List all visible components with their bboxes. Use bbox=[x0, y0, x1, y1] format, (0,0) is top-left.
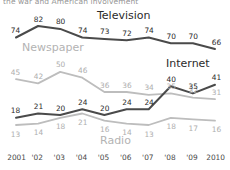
value-label: 82 bbox=[34, 15, 43, 24]
value-label: 17 bbox=[189, 124, 198, 133]
value-label: 16 bbox=[100, 125, 109, 134]
x-tick-2001: 2001 bbox=[7, 153, 26, 162]
series-line-radio bbox=[16, 114, 215, 126]
value-label: 36 bbox=[100, 81, 109, 90]
value-label: 36 bbox=[122, 81, 131, 90]
series-line-newspaper bbox=[16, 72, 215, 99]
value-label: 72 bbox=[122, 29, 131, 38]
value-label: 80 bbox=[56, 17, 65, 26]
x-tick-02: '02 bbox=[32, 153, 43, 162]
chart-root: the war and American involvement 7482807… bbox=[0, 0, 230, 170]
value-label: 13 bbox=[144, 130, 153, 139]
value-label: 46 bbox=[78, 66, 87, 75]
value-label: 31 bbox=[212, 88, 221, 97]
value-label: 21 bbox=[34, 102, 43, 111]
value-label: 74 bbox=[11, 26, 20, 35]
value-label: 24 bbox=[122, 98, 131, 107]
x-tick-09: '09 bbox=[186, 153, 197, 162]
value-label: 74 bbox=[144, 26, 153, 35]
value-label: 24 bbox=[144, 98, 153, 107]
value-label: 13 bbox=[11, 130, 20, 139]
value-label: 70 bbox=[167, 32, 176, 41]
x-tick-08: '08 bbox=[164, 153, 175, 162]
value-label: 14 bbox=[34, 128, 43, 137]
value-label: 42 bbox=[34, 72, 43, 81]
value-label: 73 bbox=[100, 27, 109, 36]
x-tick-03: '03 bbox=[54, 153, 65, 162]
value-label: 18 bbox=[167, 122, 176, 131]
value-label: 34 bbox=[144, 83, 153, 92]
x-tick-05: '05 bbox=[98, 153, 109, 162]
value-label: 35 bbox=[189, 82, 198, 91]
value-label: 18 bbox=[56, 122, 65, 131]
value-label: 70 bbox=[189, 32, 198, 41]
value-label: 74 bbox=[78, 26, 87, 35]
series-label-newspaper: Newspaper bbox=[22, 41, 84, 54]
series-label-radio: Radio bbox=[100, 134, 131, 147]
x-tick-07: '07 bbox=[142, 153, 153, 162]
value-label: 20 bbox=[56, 104, 65, 113]
x-tick-2010: 2010 bbox=[206, 153, 225, 162]
value-label: 20 bbox=[100, 104, 109, 113]
series-line-internet bbox=[16, 85, 215, 118]
x-tick-04: '04 bbox=[76, 153, 87, 162]
value-label: 45 bbox=[11, 68, 20, 77]
value-label: 24 bbox=[78, 98, 87, 107]
value-label: 66 bbox=[212, 38, 221, 47]
value-label: 18 bbox=[11, 106, 20, 115]
series-label-internet: Internet bbox=[166, 57, 210, 70]
value-label: 40 bbox=[167, 75, 176, 84]
value-label: 16 bbox=[212, 125, 221, 134]
value-label: 50 bbox=[56, 60, 65, 69]
series-label-television: Television bbox=[97, 9, 151, 22]
x-tick-06: '06 bbox=[120, 153, 131, 162]
value-label: 41 bbox=[212, 73, 221, 82]
value-label: 21 bbox=[78, 118, 87, 127]
